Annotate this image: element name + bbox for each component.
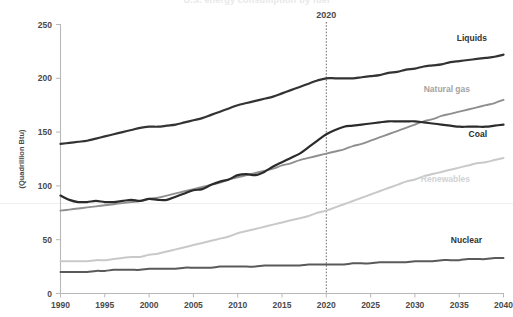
x-tick-label-2015: 2015 — [273, 300, 292, 310]
series-label-liquids: Liquids — [457, 33, 487, 43]
series-line-liquids — [61, 55, 504, 144]
series-line-natural-gas — [61, 100, 504, 211]
y-axis-tick-labels: 250 200 150 100 50 0 — [38, 20, 52, 299]
chart-plot-area: 250 200 150 100 50 0 (Quadrillion Btu) 1… — [0, 0, 513, 317]
series-label-coal: Coal — [469, 129, 487, 139]
x-axis-tick-labels: 1990 1995 2000 2005 2010 2015 2020 2025 … — [51, 300, 513, 310]
x-tick-label-2035: 2035 — [450, 300, 469, 310]
y-tick-label-200: 200 — [38, 73, 52, 83]
x-tick-label-2000: 2000 — [140, 300, 159, 310]
x-tick-label-2010: 2010 — [228, 300, 247, 310]
y-tick-label-250: 250 — [38, 20, 52, 30]
y-tick-label-0: 0 — [47, 289, 52, 299]
x-tick-label-2020: 2020 — [317, 300, 336, 310]
series-line-nuclear — [61, 258, 504, 272]
series-label-renewables: Renewables — [421, 174, 470, 184]
y-axis-title: (Quadrillion Btu) — [17, 129, 26, 189]
x-axis-ticks — [61, 294, 504, 298]
energy-consumption-chart: U.S. energy consumption by fuel 250 200 … — [0, 0, 513, 317]
series-label-natural-gas: Natural gas — [424, 84, 471, 94]
x-tick-label-2030: 2030 — [405, 300, 424, 310]
series-line-coal — [61, 121, 504, 202]
x-tick-label-2040: 2040 — [494, 300, 513, 310]
y-tick-label-100: 100 — [38, 181, 52, 191]
y-axis-ticks — [56, 25, 61, 294]
series-label-nuclear: Nuclear — [451, 235, 483, 245]
projection-marker-label: 2020 — [316, 10, 336, 20]
y-tick-label-150: 150 — [38, 127, 52, 137]
x-tick-label-1995: 1995 — [95, 300, 114, 310]
x-tick-label-2025: 2025 — [361, 300, 380, 310]
x-tick-label-2005: 2005 — [184, 300, 203, 310]
x-tick-label-1990: 1990 — [51, 300, 70, 310]
y-tick-label-50: 50 — [43, 235, 53, 245]
